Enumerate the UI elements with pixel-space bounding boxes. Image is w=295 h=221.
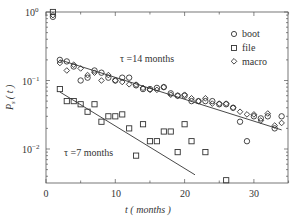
annotation-tau-14: τ =14 months: [120, 53, 174, 64]
file-point: [113, 114, 118, 119]
boot-point: [161, 84, 166, 89]
boot-point: [113, 78, 118, 83]
ytick-label-2: 10−2: [22, 143, 40, 155]
file-point: [147, 139, 152, 144]
legend-label-file: file: [242, 42, 256, 53]
boot-point: [175, 93, 180, 98]
file-point: [99, 119, 104, 124]
boot-point: [126, 75, 131, 80]
legend-square-icon: [232, 46, 237, 51]
boot-point: [230, 105, 235, 110]
x-axis-label: t ( months ): [125, 204, 172, 216]
file-point: [168, 129, 173, 134]
xtick-label-20: 20: [180, 188, 190, 199]
y-axis-label: Ps( t ): [4, 84, 17, 111]
svg-text:Ps( t ): Ps( t ): [4, 84, 17, 111]
file-point: [120, 112, 125, 117]
file-point: [154, 139, 159, 144]
macro-point: [244, 112, 250, 118]
fit-line-tau_14: [60, 60, 282, 130]
boot-point: [154, 85, 159, 90]
fit-line-tau_7: [60, 92, 195, 175]
file-point: [161, 129, 166, 134]
file-point: [127, 126, 132, 131]
file-point: [203, 150, 208, 155]
legend-circle-icon: [231, 31, 236, 36]
macro-point: [64, 68, 70, 74]
legend: boot file macro: [231, 28, 267, 67]
macro-point: [99, 78, 105, 84]
y-tick-labels: 100 10−1 10−2: [22, 6, 40, 155]
file-point: [189, 139, 194, 144]
legend-label-macro: macro: [242, 56, 267, 67]
legend-label-boot: boot: [242, 28, 260, 39]
xtick-label-30: 30: [249, 188, 259, 199]
file-point: [133, 153, 138, 158]
boot-point: [244, 138, 249, 143]
macro-point: [237, 109, 243, 115]
boot-point: [251, 114, 256, 119]
legend-diamond-icon: [231, 59, 237, 65]
macro-point: [279, 120, 285, 126]
ytick-label-0: 100: [25, 6, 39, 18]
file-point: [224, 178, 229, 183]
ytick-label-1: 10−1: [22, 75, 40, 87]
file-point: [64, 99, 69, 104]
file-point: [175, 150, 180, 155]
x-tick-labels: 0 10 20 30: [44, 188, 260, 199]
boot-point: [196, 98, 201, 103]
xtick-label-0: 0: [44, 188, 49, 199]
boot-point: [78, 78, 83, 83]
chart: 100 10−1 10−2 0 10 20 30 t ( months ) Ps…: [0, 0, 295, 221]
xtick-label-10: 10: [111, 188, 121, 199]
boot-point: [237, 119, 242, 124]
file-point: [92, 102, 97, 107]
file-point: [106, 114, 111, 119]
file-point: [57, 86, 62, 91]
boot-point: [279, 114, 284, 119]
annotation-tau-7: τ =7 months: [64, 147, 113, 158]
file-point: [182, 122, 187, 127]
file-point: [140, 122, 145, 127]
